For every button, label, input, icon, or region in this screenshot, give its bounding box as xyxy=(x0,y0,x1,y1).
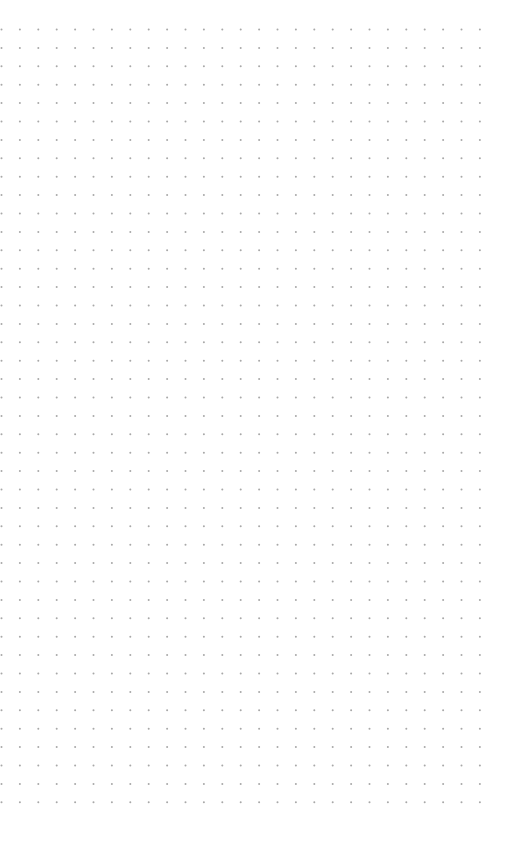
dotted-grid-canvas[interactable] xyxy=(0,0,522,861)
dot-grid xyxy=(0,0,522,861)
